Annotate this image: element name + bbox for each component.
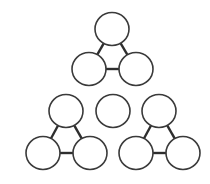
- connector-line: [120, 43, 128, 56]
- circle-node: [73, 137, 107, 170]
- connector-line: [144, 125, 152, 139]
- circle-graph-diagram: [0, 0, 210, 184]
- circle-node: [96, 95, 130, 128]
- circle-node: [166, 137, 200, 170]
- connector-line: [97, 43, 104, 55]
- connector-line: [51, 125, 59, 139]
- circle-node: [72, 53, 106, 86]
- circle-node: [142, 95, 176, 128]
- circle-node: [26, 137, 60, 170]
- nodes-layer: [26, 13, 200, 170]
- circle-node: [95, 13, 129, 46]
- circle-node: [49, 95, 83, 128]
- circle-node: [119, 53, 153, 86]
- connector-line: [74, 125, 82, 139]
- connector-line: [167, 125, 175, 139]
- circle-node: [119, 137, 153, 170]
